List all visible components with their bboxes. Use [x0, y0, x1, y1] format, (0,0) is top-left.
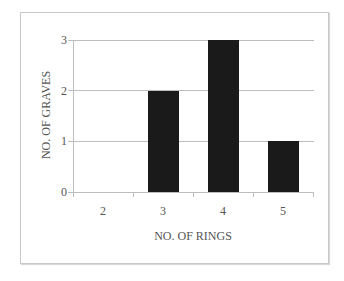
x-tick [133, 192, 134, 197]
y-tick-label: 2 [53, 85, 67, 97]
x-tick [313, 192, 314, 197]
y-tick-label: 0 [53, 186, 67, 198]
x-tick-label: 4 [213, 205, 233, 217]
x-axis-title: NO. OF RINGS [154, 229, 232, 244]
x-tick [73, 192, 74, 197]
y-tick [68, 141, 73, 142]
x-tick [253, 192, 254, 197]
bar-5 [268, 141, 299, 192]
gridline-2 [73, 90, 314, 91]
bar-4 [208, 40, 239, 192]
y-tick [68, 90, 73, 91]
x-tick-label: 3 [153, 205, 173, 217]
gridline-3 [73, 40, 314, 41]
y-tick-label: 3 [53, 34, 67, 46]
y-tick-label: 1 [53, 135, 67, 147]
x-tick [193, 192, 194, 197]
y-axis-title: NO. OF GRAVES [39, 71, 54, 159]
y-tick [68, 40, 73, 41]
plot-area [73, 40, 314, 192]
bar-3 [148, 91, 179, 192]
x-tick-label: 5 [273, 205, 293, 217]
x-tick-label: 2 [93, 205, 113, 217]
y-axis-line [73, 40, 74, 192]
